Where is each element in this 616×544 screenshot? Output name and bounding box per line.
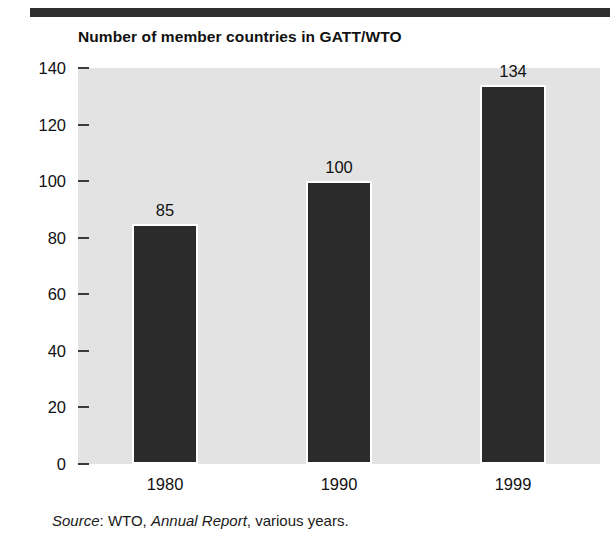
y-axis-tick-label: 140 xyxy=(0,60,66,77)
bar xyxy=(306,181,372,464)
source-separator: : xyxy=(100,512,108,529)
y-axis-tick xyxy=(78,293,89,295)
source-work: Annual Report xyxy=(151,512,247,529)
x-axis-tick-label: 1999 xyxy=(463,476,563,493)
source-label: Source xyxy=(52,512,100,529)
source-note: Source: WTO, Annual Report, various year… xyxy=(52,512,349,529)
chart-title: Number of member countries in GATT/WTO xyxy=(78,28,402,46)
bar-value-label: 85 xyxy=(125,202,205,219)
x-axis-tick-label: 1990 xyxy=(289,476,389,493)
bar xyxy=(132,224,198,464)
y-axis-tick-label: 120 xyxy=(0,117,66,134)
y-axis-tick xyxy=(78,406,89,408)
source-publisher: WTO, xyxy=(108,512,151,529)
y-axis-tick-label: 60 xyxy=(0,286,66,303)
y-axis-tick-label: 100 xyxy=(0,173,66,190)
y-axis-tick xyxy=(78,463,89,465)
y-axis-tick-label: 80 xyxy=(0,230,66,247)
y-axis-tick-label: 0 xyxy=(0,456,66,473)
bar-value-label: 100 xyxy=(299,159,379,176)
y-axis-tick xyxy=(78,350,89,352)
y-axis-tick xyxy=(78,237,89,239)
bar-value-label: 134 xyxy=(473,63,553,80)
x-axis-tick-label: 1980 xyxy=(115,476,215,493)
top-rule-decoration xyxy=(30,8,610,17)
bar xyxy=(480,85,546,464)
y-axis-tick xyxy=(78,180,89,182)
y-axis-tick-label: 20 xyxy=(0,399,66,416)
plot-area xyxy=(78,68,600,464)
y-axis-tick xyxy=(78,124,89,126)
y-axis-tick-label: 40 xyxy=(0,343,66,360)
chart-page: Number of member countries in GATT/WTO 0… xyxy=(0,0,616,544)
y-axis-tick xyxy=(78,67,89,69)
source-tail: , various years. xyxy=(247,512,349,529)
